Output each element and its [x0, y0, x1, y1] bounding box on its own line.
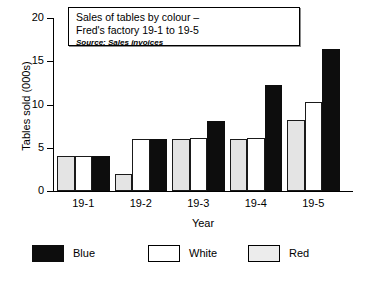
legend-label-red: Red [289, 247, 309, 259]
legend-swatch-blue [32, 245, 64, 262]
legend-swatch-red [248, 245, 280, 262]
x-tick-label-19-5: 19-5 [302, 197, 324, 209]
bar-chart-figure: Tables sold (000s) 05101520 19-119-219-3… [0, 0, 370, 281]
bar-19-4-red [230, 139, 248, 191]
bar-19-2-white [132, 139, 150, 191]
x-tick-label-19-1: 19-1 [72, 197, 94, 209]
x-tick-label-19-4: 19-4 [245, 197, 267, 209]
y-tick-label: 10 [32, 98, 44, 110]
chart-title-box: Sales of tables by colour – Fred's facto… [68, 7, 300, 46]
bar-19-1-blue [92, 156, 110, 191]
y-tick-label: 5 [38, 141, 44, 153]
bar-19-5-red [287, 120, 305, 191]
bar-19-1-red [57, 156, 75, 191]
bar-19-4-white [247, 138, 265, 191]
bar-19-5-blue [322, 49, 340, 191]
bar-19-4-blue [265, 85, 283, 191]
legend-item-red: Red [248, 243, 309, 263]
y-tick-label: 20 [32, 11, 44, 23]
y-tick-label: 15 [32, 54, 44, 66]
chart-source-note: Source: Sales invoices [76, 37, 299, 48]
legend-item-blue: Blue [32, 243, 95, 263]
bar-19-3-red [172, 139, 190, 191]
legend-label-white: White [189, 247, 217, 259]
chart-title-line-2: Fred's factory 19-1 to 19-5 [76, 24, 299, 37]
legend-label-blue: Blue [73, 247, 95, 259]
bar-19-1-white [75, 156, 93, 191]
chart-title-line-1: Sales of tables by colour – [76, 11, 299, 24]
y-tick-label: 0 [38, 184, 44, 196]
bar-19-3-white [190, 138, 208, 191]
x-tick-label-19-3: 19-3 [187, 197, 209, 209]
x-axis-title: Year [53, 217, 353, 229]
legend-swatch-white [148, 245, 180, 262]
bar-19-3-blue [207, 121, 225, 191]
bar-19-5-white [305, 102, 323, 191]
chart-legend: BlueWhiteRed [0, 243, 370, 271]
bar-19-2-red [115, 174, 133, 191]
bar-19-2-blue [150, 139, 168, 191]
legend-item-white: White [148, 243, 217, 263]
x-tick-label-19-2: 19-2 [130, 197, 152, 209]
y-axis-title: Tables sold (000s) [20, 26, 32, 186]
